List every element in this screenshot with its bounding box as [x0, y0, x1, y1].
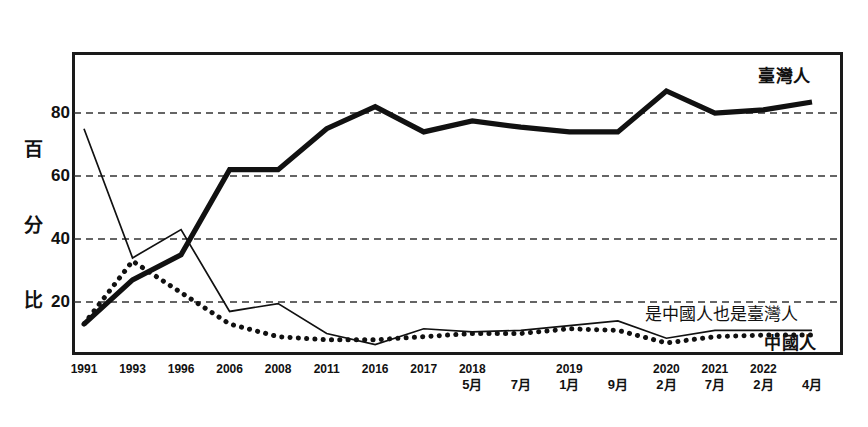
x-tick-year-8: 2018 — [459, 362, 486, 377]
x-tick-month-15: 4月 — [802, 377, 822, 393]
x-tick-12: 20202月 — [653, 362, 680, 393]
x-tick-1: 1993 — [119, 362, 146, 377]
x-tick-year-6: 2016 — [362, 362, 389, 377]
x-tick-year-13: 2021 — [702, 362, 729, 377]
x-tick-10: 20191月 — [556, 362, 583, 393]
x-tick-4: 2008 — [265, 362, 292, 377]
x-tick-13: 20217月 — [702, 362, 729, 393]
x-tick-year-12: 2020 — [653, 362, 680, 377]
series-label-taiwanese: 臺灣人 — [758, 62, 811, 87]
x-tick-month-12: 2月 — [653, 377, 680, 393]
x-tick-year-1: 1993 — [119, 362, 146, 377]
x-tick-0: 1991 — [71, 362, 98, 377]
x-tick-5: 2011 — [314, 362, 340, 377]
x-tick-month-13: 7月 — [702, 377, 729, 393]
x-tick-11: 9月 — [608, 362, 628, 393]
x-tick-month-11: 9月 — [608, 377, 628, 393]
x-tick-3: 2006 — [216, 362, 243, 377]
x-tick-9: 7月 — [511, 362, 531, 393]
x-tick-year-0: 1991 — [71, 362, 98, 377]
x-tick-year-7: 2017 — [410, 362, 437, 377]
x-tick-month-9: 7月 — [511, 377, 531, 393]
x-axis-tick-labels: 1991199319962006200820112016201720185月 7… — [0, 0, 868, 427]
x-tick-year-10: 2019 — [556, 362, 583, 377]
x-tick-6: 2016 — [362, 362, 389, 377]
identity-survey-chart: 百 分 比 80 60 40 20 1991199319962006200820… — [0, 0, 868, 427]
x-tick-7: 2017 — [410, 362, 437, 377]
x-tick-month-14: 2月 — [750, 377, 777, 393]
x-tick-year-14: 2022 — [750, 362, 777, 377]
x-tick-2: 1996 — [168, 362, 195, 377]
x-tick-year-5: 2011 — [314, 362, 340, 377]
x-tick-14: 20222月 — [750, 362, 777, 393]
x-tick-month-8: 5月 — [459, 377, 486, 393]
series-label-chinese: 中國人 — [764, 329, 817, 354]
x-tick-year-3: 2006 — [216, 362, 243, 377]
series-label-both: 是中國人也是臺灣人 — [645, 300, 798, 325]
x-tick-month-10: 1月 — [556, 377, 583, 393]
x-tick-8: 20185月 — [459, 362, 486, 393]
x-tick-15: 4月 — [802, 362, 822, 393]
x-tick-year-2: 1996 — [168, 362, 195, 377]
x-tick-year-4: 2008 — [265, 362, 292, 377]
